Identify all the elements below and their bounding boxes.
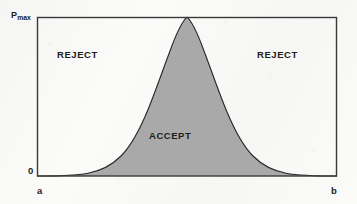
plot-canvas [0,0,357,204]
y-axis-max-subscript: max [17,14,31,21]
reject-region-right-label: REJECT [257,50,298,60]
x-axis-right-label: b [331,186,337,196]
y-axis-zero-label: 0 [28,166,33,176]
y-axis-max-label: Pmax [11,11,31,20]
accept-region-label: ACCEPT [149,131,191,141]
accept-region-area [37,17,337,176]
probability-distribution-figure: Pmax 0 a b REJECT ACCEPT REJECT [0,0,357,204]
x-axis-left-label: a [37,186,42,196]
reject-region-left-label: REJECT [57,50,98,60]
